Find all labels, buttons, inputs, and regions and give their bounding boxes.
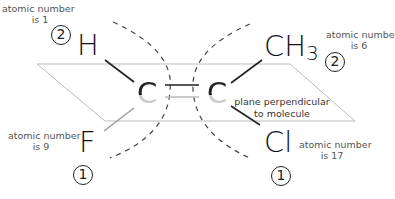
atom-f: F [79,128,96,157]
priority-badge-f: 1 [73,165,93,185]
carbon-left: C [137,79,157,108]
bond-h-c [105,60,134,82]
carbon-right: C [207,79,227,108]
bond-f-c [104,108,134,131]
atom-h: H [77,31,99,60]
atom-cl: Cl [264,128,292,157]
cl-atomic-number-label: atomic number is 17 [299,139,365,161]
f-atomic-number-label: atomic number is 9 [8,130,74,152]
h-atomic-number-label: atomic number is 1 [2,3,64,25]
priority-badge-ch3: 2 [325,52,345,72]
priority-badge-cl: 1 [271,166,291,186]
atom-ch3: CH3 [264,32,319,68]
priority-badge-h: 2 [51,25,71,45]
bond-ch3-c [231,60,262,83]
plane-label: plane perpendicular to molecule [232,96,332,120]
ch3-atomic-number-label: atomic number is 6 [326,29,392,51]
